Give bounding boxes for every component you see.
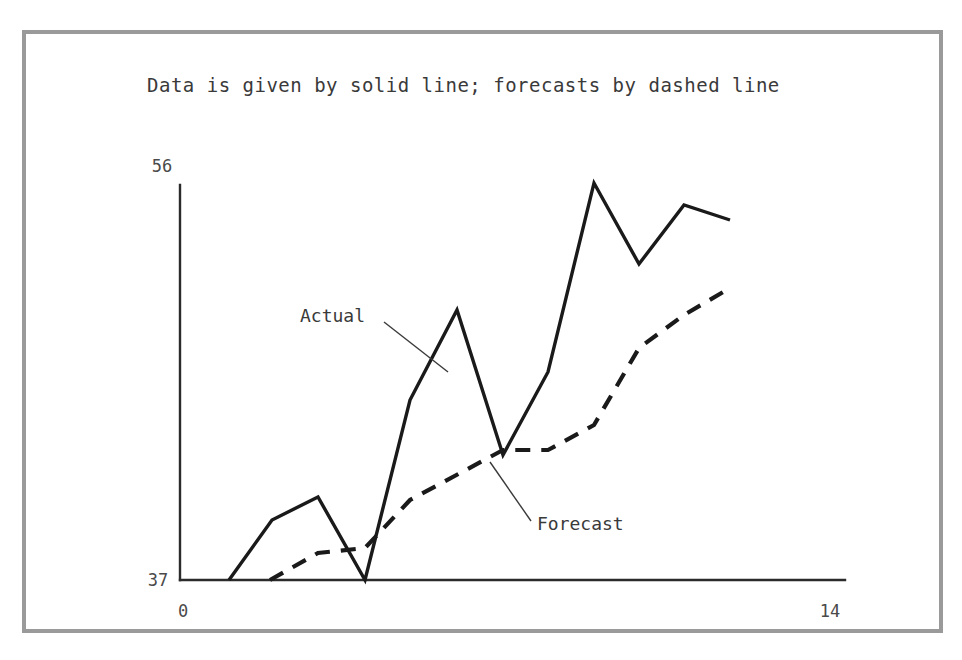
figure-root: Data is given by solid line; forecasts b…: [0, 0, 962, 660]
figure-border-frame: [22, 30, 943, 633]
figure-border-frame-inner: [26, 34, 939, 629]
